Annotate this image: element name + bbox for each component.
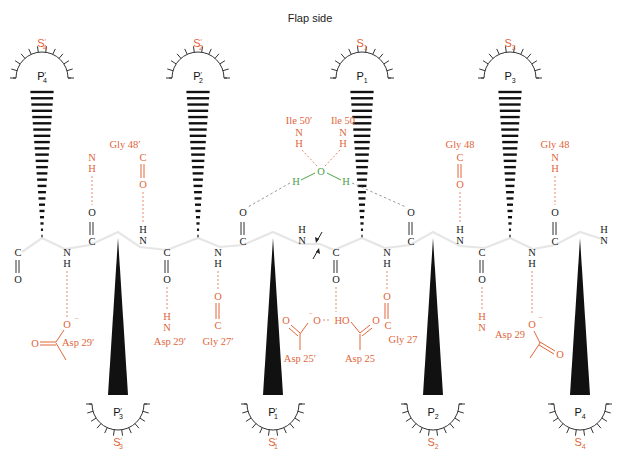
s-label: S′1 xyxy=(268,436,278,450)
scissile-bond-arrows xyxy=(313,232,322,259)
atom-n: N xyxy=(139,235,147,246)
hashed-bond-3 xyxy=(498,92,521,236)
s-label-subscript: 4 xyxy=(582,443,586,450)
atom-n: N xyxy=(214,247,222,258)
pocket-s2: P2S2 xyxy=(401,404,465,450)
atom-o: O xyxy=(407,207,415,218)
residue-gly27: Gly 27 xyxy=(389,334,418,345)
s-label-main: S xyxy=(574,436,581,448)
atom-c: C xyxy=(551,236,558,247)
atom-o: O xyxy=(372,315,380,326)
residue-gly48-prime: Gly 48′ xyxy=(109,139,140,150)
atom-h: H xyxy=(214,258,222,269)
atom-o-minus: O xyxy=(528,319,536,330)
diagram-title: Flap side xyxy=(288,12,333,24)
atom-c: C xyxy=(478,247,485,258)
atom-h: H xyxy=(528,258,536,269)
atom-c: C xyxy=(163,247,170,258)
wedge-p3-prime xyxy=(108,238,128,395)
atom-o: O xyxy=(478,274,486,285)
s-label-subscript: 2 xyxy=(435,443,439,450)
residue-gly48-b: Gly 48 xyxy=(541,139,570,150)
atom-h: H xyxy=(298,224,306,235)
p-label-main: P xyxy=(574,406,581,418)
atom-o: O xyxy=(556,349,564,360)
minus-charge: − xyxy=(75,315,79,323)
residue-gly27-prime: Gly 27′ xyxy=(202,336,233,347)
p-label: P2 xyxy=(427,406,438,420)
atom-n: N xyxy=(88,152,96,163)
s-label: S4 xyxy=(574,436,585,450)
p-label: P4 xyxy=(574,406,585,420)
pocket-s4-prime: P′4S′4 xyxy=(10,37,74,84)
residue-gly48-a: Gly 48 xyxy=(446,139,475,150)
s-label-subscript: 1 xyxy=(364,44,368,51)
s-label-subscript: 4 xyxy=(43,44,47,51)
atom-h: H xyxy=(63,258,71,269)
atom-o: O xyxy=(163,274,171,285)
atom-c: C xyxy=(214,320,221,331)
p-label-subscript: 1 xyxy=(274,413,278,420)
p-label-subscript: 3 xyxy=(119,413,123,420)
residue-asp25-prime: Asp 25′ xyxy=(284,353,316,364)
pocket-s1-prime: P′1S′1 xyxy=(241,404,305,450)
atom-c: C xyxy=(88,236,95,247)
atom-o: O xyxy=(239,207,247,218)
atom-n: N xyxy=(456,235,464,246)
atom-c: C xyxy=(139,152,146,163)
s-label: S1 xyxy=(356,37,367,51)
atom-n: N xyxy=(163,322,171,333)
s-label-main: S xyxy=(356,37,363,49)
hashed-bond-2 xyxy=(350,92,373,236)
s-label: S3 xyxy=(504,37,515,51)
p-label: P′4 xyxy=(37,70,47,84)
atom-n: N xyxy=(528,247,536,258)
atom-o: O xyxy=(14,274,22,285)
residue-asp25: Asp 25 xyxy=(345,353,375,364)
residue-asp29-prime: Asp 29′ xyxy=(62,337,94,348)
atom-c: C xyxy=(384,320,391,331)
atom-n: N xyxy=(478,322,486,333)
top-pockets: P′4S′4 P′2S′2 P1S1 P3S3 xyxy=(10,37,542,84)
bottom-pockets: P′3S′3 P′1S′1 P2S2 P4S4 xyxy=(86,404,612,450)
residue-ile50: Ile 50 xyxy=(331,115,355,126)
residue-ile50-prime: Ile 50′ xyxy=(286,115,313,126)
p-label-main: P xyxy=(356,70,363,82)
s-label: S2 xyxy=(427,436,438,450)
atom-h: H xyxy=(456,224,464,235)
atom-ho: HO xyxy=(334,315,350,326)
p-label: P3 xyxy=(504,70,515,84)
hashed-bonds xyxy=(30,92,521,236)
p-label-subscript: 3 xyxy=(512,77,516,84)
p-label-main: P xyxy=(427,406,434,418)
atom-o: O xyxy=(214,291,222,302)
catalytic-water: O H H xyxy=(248,150,406,207)
atom-c: C xyxy=(14,247,21,258)
wedge-p2 xyxy=(423,238,443,395)
atom-h: H xyxy=(551,163,559,174)
hashed-bond-1 xyxy=(186,92,209,236)
water-hydrogen-left: H xyxy=(292,176,300,187)
atom-c: C xyxy=(456,152,463,163)
p-label-subscript: 2 xyxy=(199,77,203,84)
atom-h: H xyxy=(163,311,171,322)
atom-o: O xyxy=(31,338,39,349)
hiv-protease-substrate-binding-diagram: Flap side P′4S′4 P′2S′2 P1S1 P3S3 P′3S′3… xyxy=(0,0,620,458)
atom-o: O xyxy=(551,207,559,218)
atom-h: H xyxy=(139,224,147,235)
residue-asp29: Asp 29 xyxy=(495,329,525,340)
atom-o-minus: O xyxy=(63,319,71,330)
s-label-main: S xyxy=(427,436,434,448)
atom-h: H xyxy=(600,224,608,235)
s-label: S′3 xyxy=(113,436,123,450)
atom-o: O xyxy=(139,179,147,190)
atom-h: H xyxy=(478,311,486,322)
minus-charge: − xyxy=(539,314,543,322)
atom-o: O xyxy=(88,207,96,218)
residue-asp29-prime-nh: Asp 29′ xyxy=(154,336,186,347)
p-label: P′3 xyxy=(113,406,123,420)
water-oxygen: O xyxy=(317,166,325,177)
p-label-subscript: 4 xyxy=(582,413,586,420)
p-label-main: P xyxy=(504,70,511,82)
wedge-p1-prime xyxy=(263,238,283,395)
